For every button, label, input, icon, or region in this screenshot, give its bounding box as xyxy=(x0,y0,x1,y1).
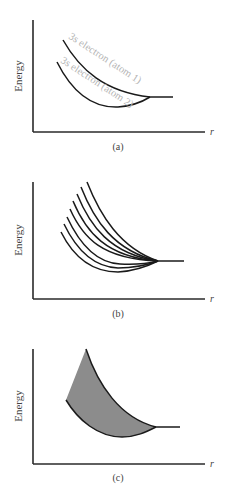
panel-b: Energy r (b) xyxy=(12,182,214,320)
curve-label-atom-1: 3s electron (atom 1) xyxy=(66,30,144,86)
panel-a: Energy r 3s electron (atom 1) 3s electro… xyxy=(12,20,214,153)
panel-c: Energy r (c) xyxy=(12,349,214,484)
panel-caption: (c) xyxy=(112,472,123,484)
x-axis-label: r xyxy=(210,458,214,469)
y-axis-label: Energy xyxy=(12,390,24,422)
y-axis-label: Energy xyxy=(12,224,24,256)
energy-band-fill xyxy=(66,349,156,437)
x-axis-label: r xyxy=(210,293,214,304)
y-axis-label: Energy xyxy=(12,60,24,92)
x-axis-label: r xyxy=(210,126,214,137)
panel-caption: (a) xyxy=(112,141,123,153)
energy-band-diagram: Energy r 3s electron (atom 1) 3s electro… xyxy=(0,0,232,503)
curve-family xyxy=(61,182,184,272)
panel-caption: (b) xyxy=(112,308,124,320)
